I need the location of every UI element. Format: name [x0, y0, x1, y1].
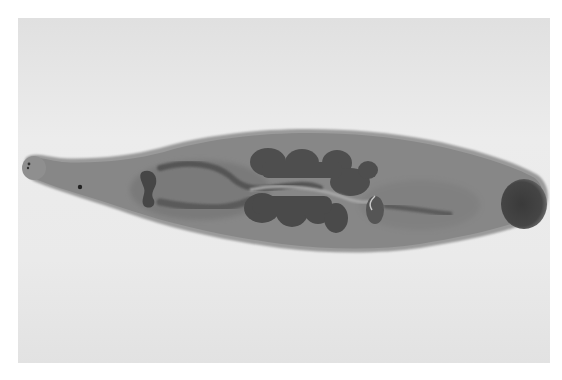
oral-end	[22, 156, 46, 180]
image-frame	[0, 0, 562, 380]
eyespot-icon	[27, 167, 29, 169]
specimen-illustration	[18, 18, 550, 363]
posterior-sucker	[501, 179, 547, 229]
small-organ	[366, 196, 384, 224]
micrograph	[18, 18, 550, 363]
eyespot-icon	[78, 185, 82, 189]
eyespot-icon	[28, 163, 31, 166]
